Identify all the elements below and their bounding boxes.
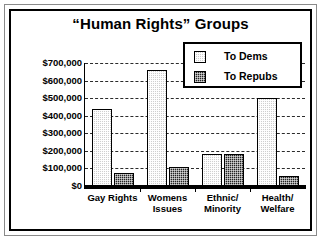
y-axis-tick-label: $200,000	[4, 145, 82, 156]
y-axis-tick-labels: $700,000$600,000$500,000$400,000$300,000…	[0, 0, 82, 246]
bar-to-dems	[257, 98, 277, 186]
bar-to-repubs	[224, 154, 244, 186]
x-axis-group-tick	[250, 185, 251, 192]
legend-swatch-to-repubs	[194, 71, 206, 83]
y-axis-tick-label: $300,000	[4, 127, 82, 138]
y-axis-tick-label: $100,000	[4, 162, 82, 173]
x-axis-label: Health/Welfare	[244, 192, 311, 214]
x-axis-group-tick	[195, 185, 196, 192]
y-axis-tick-label: $600,000	[4, 75, 82, 86]
y-axis-tick-label: $400,000	[4, 110, 82, 121]
y-axis-tick-label: $700,000	[4, 57, 82, 68]
bar-to-dems	[147, 70, 167, 186]
x-axis-label-line: Health/	[244, 192, 311, 203]
y-axis-tick-label: $0	[4, 180, 82, 191]
chart-legend: To Dems To Repubs	[183, 42, 302, 88]
bar-to-repubs	[169, 167, 189, 186]
legend-label-to-dems: To Dems	[224, 50, 268, 62]
y-axis-tick-label: $500,000	[4, 92, 82, 103]
x-axis-group-tick	[140, 185, 141, 192]
bar-to-dems	[92, 109, 112, 186]
bar-to-dems	[202, 154, 222, 186]
legend-label-to-repubs: To Repubs	[224, 70, 277, 82]
x-axis-label-line: Welfare	[244, 203, 311, 214]
legend-swatch-to-dems	[194, 51, 206, 63]
